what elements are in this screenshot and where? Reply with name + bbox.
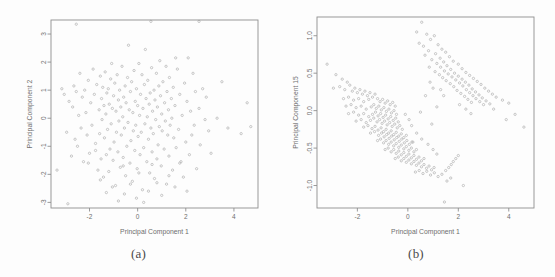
- data-point: [414, 171, 416, 173]
- data-point: [410, 157, 412, 159]
- data-point: [457, 63, 459, 65]
- data-point: [495, 96, 497, 98]
- y-tick-label: -3: [41, 199, 48, 205]
- data-point: [505, 118, 507, 120]
- y-tick-label: 2: [41, 60, 48, 64]
- data-point: [106, 92, 108, 94]
- data-point: [139, 154, 141, 156]
- data-point: [346, 81, 348, 83]
- data-point: [92, 68, 94, 70]
- data-point: [418, 156, 420, 158]
- y-tick-label: -0.5: [307, 142, 314, 154]
- data-point: [365, 121, 367, 123]
- data-point: [145, 97, 147, 99]
- data-point: [116, 74, 118, 76]
- data-point: [221, 81, 223, 83]
- data-point: [151, 163, 153, 165]
- data-point: [363, 112, 365, 114]
- data-point: [406, 139, 408, 141]
- data-point: [475, 97, 477, 99]
- panel-a-plot: -20243210-1-2-3Principal Component 1Prin…: [0, 0, 277, 277]
- data-point: [410, 124, 412, 126]
- data-point: [147, 79, 149, 81]
- data-point: [94, 149, 96, 151]
- panel-a: -20243210-1-2-3Principal Component 1Prin…: [0, 0, 277, 277]
- data-point: [157, 144, 159, 146]
- data-point: [381, 98, 383, 100]
- data-point: [351, 90, 353, 92]
- data-point: [481, 97, 483, 99]
- data-point: [114, 82, 116, 84]
- data-point: [168, 76, 170, 78]
- data-point: [150, 20, 152, 22]
- data-point: [393, 148, 395, 150]
- data-point: [431, 123, 433, 125]
- data-point: [446, 180, 448, 182]
- data-point: [120, 134, 122, 136]
- data-point: [117, 99, 119, 101]
- data-point: [144, 48, 146, 50]
- data-point: [174, 186, 176, 188]
- data-point: [470, 112, 472, 114]
- data-point: [125, 102, 127, 104]
- data-point: [446, 65, 448, 67]
- data-point: [354, 87, 356, 89]
- data-point: [443, 70, 445, 72]
- data-point: [388, 108, 390, 110]
- data-point: [377, 129, 379, 131]
- data-point: [448, 166, 450, 168]
- data-point: [216, 117, 218, 119]
- data-point: [143, 201, 145, 203]
- data-point: [482, 103, 484, 105]
- data-point: [78, 114, 80, 116]
- data-point: [352, 111, 354, 113]
- data-point: [110, 123, 112, 125]
- data-point: [383, 136, 385, 138]
- data-point: [129, 162, 131, 164]
- data-point: [405, 161, 407, 163]
- data-point: [149, 172, 151, 174]
- data-point: [401, 138, 403, 140]
- data-point: [374, 93, 376, 95]
- data-point: [87, 79, 89, 81]
- y-tick-label: 3: [41, 32, 48, 36]
- data-point: [345, 105, 347, 107]
- data-point: [379, 112, 381, 114]
- data-point: [171, 117, 173, 119]
- data-point: [452, 160, 454, 162]
- data-point: [123, 96, 125, 98]
- data-point: [141, 189, 143, 191]
- data-point: [433, 35, 435, 37]
- data-point: [136, 168, 138, 170]
- data-point: [379, 100, 381, 102]
- data-point: [395, 142, 397, 144]
- data-point: [441, 48, 443, 50]
- data-point: [153, 89, 155, 91]
- x-axis-title: Principal Component 1: [120, 228, 189, 236]
- data-point: [185, 141, 187, 143]
- panel-b-plot: -20241.00.50.0-0.5-1.0Principal Componen…: [277, 0, 555, 277]
- data-point: [458, 82, 460, 84]
- data-point: [115, 110, 117, 112]
- data-point: [139, 93, 141, 95]
- data-point: [129, 90, 131, 92]
- data-point: [370, 106, 372, 108]
- x-tick-label: 2: [184, 213, 188, 220]
- data-point: [485, 100, 487, 102]
- data-point: [434, 53, 436, 55]
- data-point: [390, 141, 392, 143]
- data-point: [344, 89, 346, 91]
- data-point: [138, 172, 140, 174]
- data-point: [385, 128, 387, 130]
- data-point: [388, 137, 390, 139]
- data-point: [179, 162, 181, 164]
- data-point: [165, 65, 167, 67]
- panel-b-points-layer: [326, 21, 525, 203]
- data-point: [368, 115, 370, 117]
- data-point: [445, 80, 447, 82]
- data-point: [183, 82, 185, 84]
- data-point: [134, 100, 136, 102]
- data-point: [192, 72, 194, 74]
- data-point: [384, 114, 386, 116]
- data-point: [430, 169, 432, 171]
